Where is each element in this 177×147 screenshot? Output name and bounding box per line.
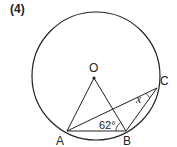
center-point-O — [92, 76, 95, 79]
segment-BC — [126, 88, 157, 131]
angle-arc-C — [146, 93, 150, 98]
label-B: B — [123, 134, 131, 147]
angle-arc-B — [116, 122, 121, 131]
label-C: C — [160, 74, 169, 88]
geometry-figure: O A B C 62° x — [0, 0, 177, 147]
angle-label-x: x — [135, 92, 142, 106]
segment-OA — [67, 78, 94, 131]
circle — [32, 12, 160, 140]
angle-label-62: 62° — [99, 119, 116, 131]
label-A: A — [56, 134, 64, 147]
label-O: O — [89, 61, 98, 75]
